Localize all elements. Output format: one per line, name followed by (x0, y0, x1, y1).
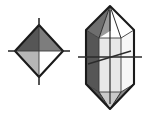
prism-right-face (121, 30, 134, 92)
crystal-diagram-canvas (0, 0, 145, 115)
crystal-diagram (0, 0, 145, 115)
